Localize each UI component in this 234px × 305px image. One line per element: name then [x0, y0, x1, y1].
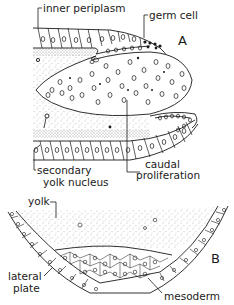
- label-germ-cell: germ cell: [149, 10, 198, 21]
- diagram-artwork: [0, 0, 234, 305]
- label-lateral-plate-line1: lateral: [8, 271, 42, 282]
- label-lateral-plate-line2: plate: [13, 283, 40, 294]
- label-inner-periplasm: inner periplasm: [43, 3, 125, 14]
- label-secondary-yolk-nucleus-line1: secondary: [37, 165, 91, 176]
- label-caudal-proliferation-line2: proliferation: [136, 170, 200, 181]
- panel-b-letter: B: [211, 252, 220, 265]
- label-mesoderm: mesoderm: [164, 291, 220, 302]
- embryo-diagram: inner periplasm germ cell A secondary yo…: [0, 0, 234, 305]
- label-secondary-yolk-nucleus-line2: yolk nucleus: [43, 177, 109, 188]
- panel-a-letter: A: [178, 34, 187, 47]
- label-yolk: yolk: [28, 196, 50, 207]
- panel-a: [33, 8, 198, 172]
